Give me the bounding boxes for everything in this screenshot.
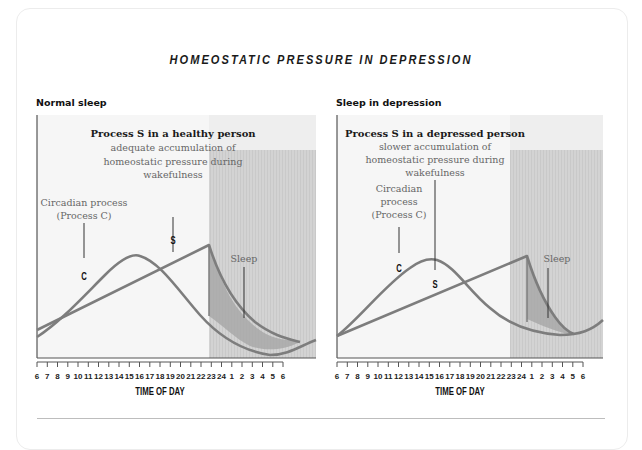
- x-axis-label-depression: TIME OF DAY: [435, 386, 484, 397]
- chart-sleep-depression: [337, 115, 603, 367]
- svg-text:17: 17: [145, 372, 154, 381]
- svg-text:12: 12: [94, 372, 103, 381]
- svg-text:4: 4: [260, 372, 265, 381]
- x-tick-labels-right: 6789101112131415161718192021222324123456: [335, 372, 586, 381]
- svg-text:9: 9: [366, 372, 371, 381]
- svg-text:20: 20: [476, 372, 485, 381]
- svg-text:7: 7: [45, 372, 50, 381]
- svg-text:19: 19: [466, 372, 475, 381]
- c-desc-line: process: [380, 196, 417, 207]
- svg-text:14: 14: [415, 372, 424, 381]
- c-marker-normal: C: [81, 270, 87, 283]
- x-tick-labels-left: 6789101112131415161718192021222324123456: [35, 372, 286, 381]
- svg-text:15: 15: [425, 372, 434, 381]
- svg-text:11: 11: [384, 372, 393, 381]
- svg-text:18: 18: [156, 372, 165, 381]
- svg-text:19: 19: [166, 372, 175, 381]
- svg-text:6: 6: [35, 372, 40, 381]
- svg-text:9: 9: [66, 372, 71, 381]
- svg-text:23: 23: [207, 372, 216, 381]
- bottom-divider: [37, 418, 605, 419]
- s-desc-line: wakefulness: [143, 169, 202, 180]
- svg-text:23: 23: [507, 372, 516, 381]
- s-desc-line: homeostatic pressure during: [103, 156, 242, 167]
- s-desc-line: wakefulness: [405, 167, 464, 178]
- s-desc-line: homeostatic pressure during: [365, 154, 504, 165]
- c-desc-line: (Process C): [371, 209, 426, 220]
- s-marker-depression: S: [432, 278, 437, 291]
- svg-text:24: 24: [217, 372, 226, 381]
- svg-text:14: 14: [115, 372, 124, 381]
- svg-text:3: 3: [550, 372, 555, 381]
- svg-text:21: 21: [186, 372, 195, 381]
- svg-text:6: 6: [581, 372, 586, 381]
- svg-text:5: 5: [571, 372, 576, 381]
- s-heading-normal: Process S in a healthy person: [90, 128, 256, 139]
- c-marker-depression: C: [396, 262, 402, 275]
- x-ticks-left: [37, 362, 283, 367]
- svg-text:21: 21: [486, 372, 495, 381]
- svg-text:10: 10: [74, 372, 83, 381]
- svg-text:22: 22: [197, 372, 206, 381]
- x-ticks-right: [337, 362, 583, 367]
- sleep-label-normal: Sleep: [231, 253, 258, 264]
- svg-text:11: 11: [84, 372, 93, 381]
- svg-text:17: 17: [445, 372, 454, 381]
- svg-text:24: 24: [517, 372, 526, 381]
- svg-text:12: 12: [394, 372, 403, 381]
- svg-text:5: 5: [271, 372, 276, 381]
- c-desc-line: (Process C): [56, 210, 111, 221]
- svg-text:16: 16: [135, 372, 144, 381]
- svg-text:6: 6: [281, 372, 286, 381]
- svg-text:18: 18: [456, 372, 465, 381]
- svg-text:8: 8: [355, 372, 360, 381]
- svg-text:3: 3: [250, 372, 255, 381]
- svg-text:15: 15: [125, 372, 134, 381]
- svg-text:20: 20: [176, 372, 185, 381]
- svg-text:13: 13: [404, 372, 413, 381]
- x-axis-label-normal: TIME OF DAY: [135, 386, 184, 397]
- s-desc-line: adequate accumulation of: [111, 142, 237, 153]
- c-desc-line: Circadian process: [41, 197, 128, 208]
- svg-text:10: 10: [374, 372, 383, 381]
- svg-text:13: 13: [104, 372, 113, 381]
- svg-text:4: 4: [560, 372, 565, 381]
- svg-text:8: 8: [55, 372, 60, 381]
- svg-text:1: 1: [230, 372, 235, 381]
- svg-text:22: 22: [497, 372, 506, 381]
- sleep-label-depression: Sleep: [544, 253, 571, 264]
- svg-text:1: 1: [530, 372, 535, 381]
- svg-text:16: 16: [435, 372, 444, 381]
- s-heading-depression: Process S in a depressed person: [345, 128, 526, 139]
- svg-text:6: 6: [335, 372, 340, 381]
- c-desc-line: Circadian: [376, 183, 423, 194]
- s-desc-line: slower accumulation of: [379, 141, 493, 152]
- s-marker-normal: S: [170, 234, 175, 247]
- svg-text:7: 7: [345, 372, 350, 381]
- svg-text:2: 2: [240, 372, 245, 381]
- svg-text:2: 2: [540, 372, 545, 381]
